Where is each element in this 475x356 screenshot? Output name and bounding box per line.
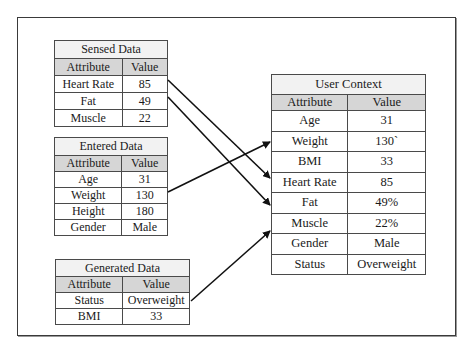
- column-header-value: Value: [348, 95, 426, 111]
- column-header-attribute: Attribute: [56, 277, 123, 293]
- value-cell: 31: [348, 111, 426, 132]
- column-header-value: Value: [123, 277, 190, 293]
- value-cell: 49%: [348, 193, 426, 214]
- value-cell: 33: [123, 309, 190, 325]
- generated-data-table: Generated Data Attribute Value Status Ov…: [55, 259, 190, 325]
- table-row: Heart Rate 85: [55, 76, 168, 93]
- value-cell: Overweight: [348, 254, 426, 275]
- column-header-value: Value: [122, 156, 168, 172]
- value-cell: 130`: [348, 131, 426, 152]
- table-row: Heart Rate 85: [272, 172, 426, 193]
- attribute-cell: Muscle: [272, 213, 348, 234]
- attribute-cell: Status: [272, 254, 348, 275]
- value-cell: 180: [122, 204, 168, 220]
- attribute-cell: Gender: [272, 234, 348, 255]
- table-row: Gender Male: [272, 234, 426, 255]
- attribute-cell: Heart Rate: [272, 172, 348, 193]
- value-cell: 49: [122, 93, 167, 110]
- attribute-cell: Fat: [55, 93, 123, 110]
- table-row: Height 180: [55, 204, 168, 220]
- attribute-cell: Fat: [272, 193, 348, 214]
- table-row: Fat 49: [55, 93, 168, 110]
- table-title: User Context: [272, 75, 426, 95]
- column-header-attribute: Attribute: [55, 156, 122, 172]
- table-row: Muscle 22: [55, 110, 168, 127]
- attribute-cell: Muscle: [55, 110, 123, 127]
- value-cell: 85: [122, 76, 167, 93]
- table-row: BMI 33: [56, 309, 190, 325]
- attribute-cell: Weight: [55, 188, 122, 204]
- table-row: Status Overweight: [272, 254, 426, 275]
- table-title: Sensed Data: [55, 41, 168, 59]
- column-header-attribute: Attribute: [272, 95, 348, 111]
- value-cell: 31: [122, 172, 168, 188]
- sensed-data-table: Sensed Data Attribute Value Heart Rate 8…: [54, 40, 168, 127]
- value-cell: 85: [348, 172, 426, 193]
- attribute-cell: BMI: [272, 152, 348, 173]
- value-cell: Male: [348, 234, 426, 255]
- attribute-cell: Heart Rate: [55, 76, 123, 93]
- column-header-value: Value: [122, 59, 167, 76]
- attribute-cell: BMI: [56, 309, 123, 325]
- table-row: Gender Male: [55, 220, 168, 236]
- user-context-table: User Context Attribute Value Age 31 Weig…: [271, 74, 426, 275]
- attribute-cell: Gender: [55, 220, 122, 236]
- value-cell: 22: [122, 110, 167, 127]
- value-cell: Male: [122, 220, 168, 236]
- attribute-cell: Weight: [272, 131, 348, 152]
- table-title: Entered Data: [55, 138, 168, 156]
- value-cell: 33: [348, 152, 426, 173]
- value-cell: 22%: [348, 213, 426, 234]
- table-row: Weight 130: [55, 188, 168, 204]
- attribute-cell: Height: [55, 204, 122, 220]
- attribute-cell: Status: [56, 293, 123, 309]
- column-header-attribute: Attribute: [55, 59, 123, 76]
- table-row: BMI 33: [272, 152, 426, 173]
- value-cell: 130: [122, 188, 168, 204]
- value-cell: Overweight: [123, 293, 190, 309]
- table-row: Age 31: [272, 111, 426, 132]
- attribute-cell: Age: [55, 172, 122, 188]
- table-row: Status Overweight: [56, 293, 190, 309]
- table-row: Age 31: [55, 172, 168, 188]
- entered-data-table: Entered Data Attribute Value Age 31 Weig…: [54, 137, 168, 236]
- attribute-cell: Age: [272, 111, 348, 132]
- table-title: Generated Data: [56, 260, 190, 277]
- table-row: Weight 130`: [272, 131, 426, 152]
- table-row: Muscle 22%: [272, 213, 426, 234]
- table-row: Fat 49%: [272, 193, 426, 214]
